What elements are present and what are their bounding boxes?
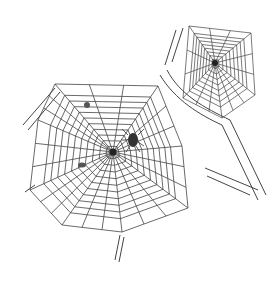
spider-web-illustration <box>0 0 279 290</box>
large-web <box>30 84 188 232</box>
tree-branches <box>23 28 266 262</box>
insect <box>84 102 90 108</box>
insect <box>78 163 86 168</box>
small-web <box>183 26 255 118</box>
hub-small <box>212 60 218 66</box>
hub-large <box>110 149 117 156</box>
